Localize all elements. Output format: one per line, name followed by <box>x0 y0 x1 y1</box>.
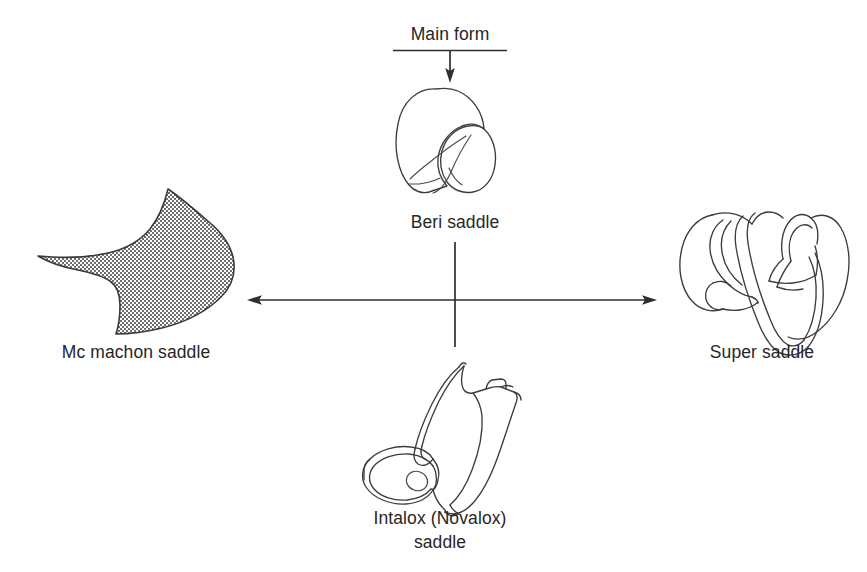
mc-machon-saddle-shape <box>38 189 234 334</box>
intalox-saddle-label: Intalox (Novalox) saddle <box>310 506 570 554</box>
intalox-saddle-shape <box>363 363 521 516</box>
main-form-connector <box>393 51 507 84</box>
intalox-saddle-label-line2: saddle <box>310 530 570 554</box>
diagram-canvas <box>0 0 867 572</box>
main-form-title: Main form <box>411 23 490 45</box>
intalox-saddle-label-line1: Intalox (Novalox) <box>310 506 570 530</box>
beri-saddle-label: Beri saddle <box>411 211 500 233</box>
mc-machon-saddle-label: Mc machon saddle <box>62 341 210 363</box>
super-saddle-shape <box>680 212 849 355</box>
super-saddle-label: Super saddle <box>710 341 814 363</box>
beri-saddle-shape <box>396 88 495 193</box>
horizontal-double-arrow <box>247 295 657 305</box>
saddle-forms-diagram: Main form Beri saddle Mc machon saddle S… <box>0 0 867 572</box>
